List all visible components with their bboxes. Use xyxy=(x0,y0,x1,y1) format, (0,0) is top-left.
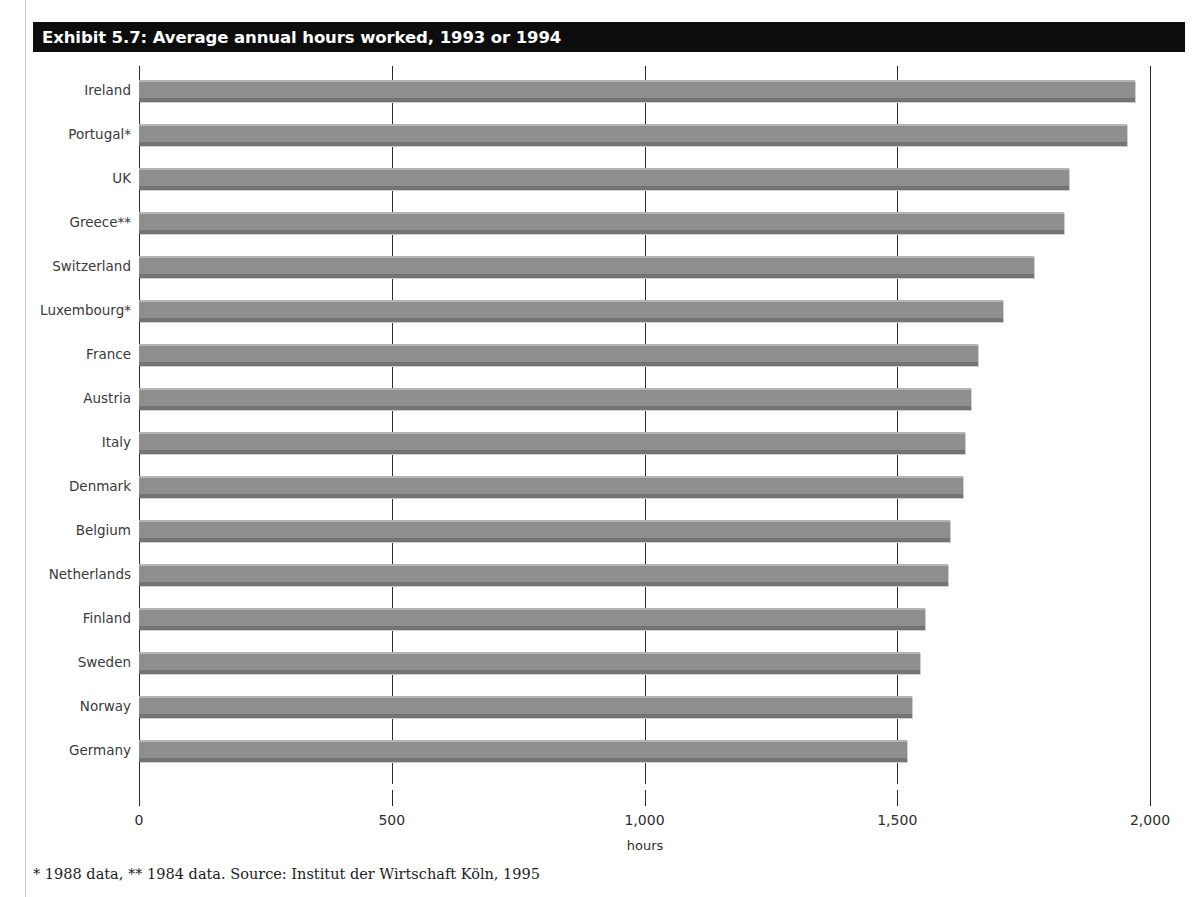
x-tick-mark xyxy=(897,790,898,806)
gridline-segment xyxy=(645,718,646,740)
x-tick-label: 500 xyxy=(378,812,405,828)
gridline-segment xyxy=(392,718,393,740)
gridline-segment xyxy=(392,454,393,476)
bar-france xyxy=(139,344,978,366)
gridline-segment xyxy=(645,234,646,256)
x-tick-label: 1,000 xyxy=(624,812,664,828)
category-label-greece: Greece** xyxy=(69,216,131,230)
bar-belgium xyxy=(139,520,950,542)
gridline-segment xyxy=(897,762,898,784)
bar-italy xyxy=(139,432,965,454)
bar-greece xyxy=(139,212,1064,234)
x-tick-mark xyxy=(1150,790,1151,806)
category-label-denmark: Denmark xyxy=(69,480,131,494)
gridline-segment xyxy=(645,542,646,564)
gridline-segment xyxy=(392,146,393,168)
category-label-austria: Austria xyxy=(83,392,131,406)
category-label-ireland: Ireland xyxy=(84,84,131,98)
x-tick-label: 1,500 xyxy=(877,812,917,828)
gridline-segment xyxy=(645,102,646,124)
gridline-segment xyxy=(392,278,393,300)
category-label-luxembourg: Luxembourg* xyxy=(40,304,131,318)
gridline-segment xyxy=(645,630,646,652)
gridline-segment xyxy=(645,366,646,388)
category-label-uk: UK xyxy=(112,172,131,186)
gridline-segment xyxy=(392,366,393,388)
gridline-segment xyxy=(392,586,393,608)
bar-uk xyxy=(139,168,1069,190)
gridline-segment xyxy=(897,674,898,696)
category-label-belgium: Belgium xyxy=(76,524,131,538)
category-label-switzerland: Switzerland xyxy=(52,260,131,274)
bar-netherlands xyxy=(139,564,948,586)
x-tick-label: 0 xyxy=(135,812,144,828)
gridline-segment xyxy=(645,498,646,520)
gridline-segment xyxy=(897,322,898,344)
gridline-segment xyxy=(897,542,898,564)
gridline-segment xyxy=(645,322,646,344)
gridline-segment xyxy=(897,146,898,168)
gridline-segment xyxy=(392,674,393,696)
bar-germany xyxy=(139,740,907,762)
gridline-segment xyxy=(645,278,646,300)
gridline-segment xyxy=(897,102,898,124)
gridline-segment xyxy=(897,410,898,432)
bar-switzerland xyxy=(139,256,1034,278)
category-label-norway: Norway xyxy=(80,700,131,714)
category-label-sweden: Sweden xyxy=(78,656,131,670)
gridline-segment xyxy=(392,542,393,564)
x-axis-title: hours xyxy=(627,838,664,853)
x-tick-label: 2,000 xyxy=(1130,812,1170,828)
gridline-segment xyxy=(392,234,393,256)
gridline-2000 xyxy=(1150,66,1151,802)
gridline-segment xyxy=(897,366,898,388)
bar-austria xyxy=(139,388,971,410)
gridline-segment xyxy=(897,586,898,608)
gridline-segment xyxy=(392,410,393,432)
bar-finland xyxy=(139,608,925,630)
gridline-segment xyxy=(392,498,393,520)
gridline-segment xyxy=(645,146,646,168)
gridline-segment xyxy=(645,454,646,476)
bar-portugal xyxy=(139,124,1127,146)
bar-sweden xyxy=(139,652,920,674)
gridline-segment xyxy=(645,586,646,608)
gridline-segment xyxy=(392,630,393,652)
gridline-segment xyxy=(392,102,393,124)
category-label-finland: Finland xyxy=(83,612,131,626)
gridline-segment xyxy=(645,762,646,784)
gridline-segment xyxy=(897,278,898,300)
bar-luxembourg xyxy=(139,300,1003,322)
gridline-segment xyxy=(645,410,646,432)
x-tick-mark xyxy=(392,790,393,806)
bar-denmark xyxy=(139,476,963,498)
bar-chart: 05001,0001,5002,000IrelandPortugal*UKGre… xyxy=(0,0,1193,897)
category-label-italy: Italy xyxy=(102,436,131,450)
bar-norway xyxy=(139,696,912,718)
gridline-segment xyxy=(897,234,898,256)
gridline-segment xyxy=(392,762,393,784)
gridline-segment xyxy=(897,630,898,652)
gridline-segment xyxy=(897,498,898,520)
gridline-segment xyxy=(645,190,646,212)
category-label-france: France xyxy=(86,348,131,362)
category-label-portugal: Portugal* xyxy=(68,128,131,142)
gridline-segment xyxy=(392,322,393,344)
chart-footnote: * 1988 data, ** 1984 data. Source: Insti… xyxy=(33,866,540,882)
category-label-germany: Germany xyxy=(69,744,131,758)
x-tick-mark xyxy=(645,790,646,806)
bar-ireland xyxy=(139,80,1135,102)
gridline-segment xyxy=(897,190,898,212)
gridline-segment xyxy=(897,454,898,476)
gridline-segment xyxy=(897,718,898,740)
gridline-segment xyxy=(392,190,393,212)
gridline-segment xyxy=(645,674,646,696)
category-label-netherlands: Netherlands xyxy=(49,568,131,582)
x-tick-mark xyxy=(139,790,140,806)
